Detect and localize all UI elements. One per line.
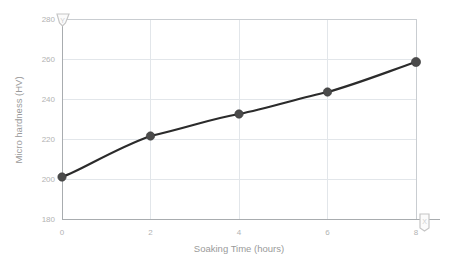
y-axis-title: Micro hardness (HV) bbox=[13, 76, 24, 163]
y-tick-label: 220 bbox=[42, 135, 56, 144]
y-tick-label: 280 bbox=[42, 15, 56, 24]
data-point[interactable] bbox=[58, 173, 66, 181]
vertical-gridlines bbox=[151, 19, 417, 219]
line-chart: 280 260 240 220 200 180 0 2 4 6 8 Soakin… bbox=[0, 0, 458, 265]
x-axis-handle[interactable]: X bbox=[420, 214, 429, 231]
y-tick-labels: 280 260 240 220 200 180 bbox=[42, 15, 56, 224]
x-axis-handle-label: X bbox=[422, 218, 427, 225]
y-tick-label: 240 bbox=[42, 95, 56, 104]
y-tick-label: 180 bbox=[42, 215, 56, 224]
x-axis-title: Soaking Time (hours) bbox=[194, 243, 284, 254]
x-tick-label: 2 bbox=[148, 228, 153, 237]
x-tick-label: 4 bbox=[237, 228, 242, 237]
x-tick-label: 8 bbox=[414, 228, 419, 237]
chart-container: 280 260 240 220 200 180 0 2 4 6 8 Soakin… bbox=[0, 0, 458, 265]
data-point[interactable] bbox=[411, 57, 420, 66]
x-tick-label: 6 bbox=[325, 228, 330, 237]
x-tick-labels: 0 2 4 6 8 bbox=[60, 228, 419, 237]
x-tick-label: 0 bbox=[60, 228, 65, 237]
y-axis-handle[interactable]: Y bbox=[57, 14, 69, 26]
y-axis-handle-label: Y bbox=[60, 17, 65, 24]
y-tick-label: 200 bbox=[42, 175, 56, 184]
data-point[interactable] bbox=[146, 132, 154, 140]
data-point[interactable] bbox=[235, 110, 243, 118]
data-point[interactable] bbox=[323, 88, 331, 96]
y-tick-label: 260 bbox=[42, 55, 56, 64]
axis-lines bbox=[62, 19, 440, 220]
